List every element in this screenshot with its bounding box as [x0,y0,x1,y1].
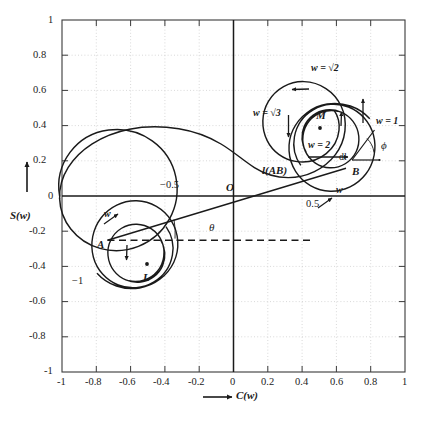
y-tick-label-neg1: -1 [44,366,53,377]
y-tick-label-neg0p8: -0.8 [29,331,46,342]
y-tick-label-0: 0 [48,191,53,202]
x-tick-label-neg0p2: -0.2 [188,377,205,388]
chord-label-lAB: l(AB) [262,165,287,176]
w-sqrt2-arrow [292,89,309,90]
dl-label: dl [339,152,347,162]
x-tick-label-0p8: 0.8 [364,377,377,388]
cornu-spiral-figure: 1 0.8 0.6 0.4 0.2 0 -0.2 -0.4 -0.6 -0.8 … [0,0,425,427]
plot-canvas [0,0,425,427]
x-tick-label-neg0p8: -0.8 [85,377,102,388]
limit-point-M-dot [318,126,322,130]
x-tick-label-neg0p6: -0.6 [119,377,136,388]
w-direction-label-right: w [336,185,343,195]
x-tick-label-0p2: 0.2 [261,377,274,388]
y-tick-label-neg0p4: -0.4 [29,261,46,272]
y-tick-label-0p6: 0.6 [33,85,46,96]
w-1-label: w = 1 [376,116,398,126]
theta-angle-label: θ [209,222,214,233]
y-tick-label-neg0p2: -0.2 [29,226,46,237]
w-sqrt3-label: w = √3 [253,108,281,118]
x-tick-label-neg0p4: -0.4 [153,377,170,388]
x-tick-label-0: 0 [230,377,235,388]
x-tick-label-0p4: 0.4 [295,377,308,388]
lower-spiral-curl-arrow [127,245,128,260]
x-tick-label-1: 1 [402,377,407,388]
phi-angle-label: ϕ [381,140,387,151]
limit-point-L-dot [145,262,149,266]
limit-point-label-M: M [316,110,326,121]
point-label-B: B [352,166,359,177]
origin-label-O: O [226,182,234,193]
x-tick-label-neg1: -1 [57,377,66,388]
inline-tick-label-neg-half: −0.5 [160,180,179,191]
w-2-label: w = 2 [308,140,330,150]
upper-spiral-curl-arrow [341,112,342,126]
point-label-A: A [97,239,104,250]
y-tick-label-0p8: 0.8 [33,50,46,61]
y-tick-label-0p2: 0.2 [33,155,46,166]
y-tick-label-neg0p6: -0.6 [29,296,46,307]
y-axis-title: S(w) [10,210,31,221]
w-sqrt2-label: w = √2 [311,63,339,73]
w-direction-label-left: w [104,209,111,219]
y-tick-label-1: 1 [48,15,53,26]
y-tick-label-0p4: 0.4 [33,120,46,131]
inline-tick-label-neg-one: −1 [72,276,83,287]
x-tick-label-0p6: 0.6 [330,377,343,388]
inline-tick-label-half: 0.5 [306,199,319,210]
x-axis-title: C(w) [236,390,258,401]
limit-point-label-L: L [143,272,150,283]
phi-ray-dot [378,159,380,161]
